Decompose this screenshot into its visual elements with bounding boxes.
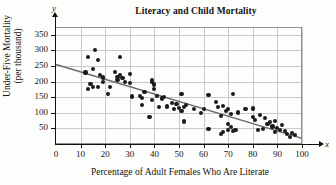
data-point xyxy=(115,78,119,82)
x-axis-arrow-icon xyxy=(319,141,324,147)
x-tick-label: 70 xyxy=(216,149,240,159)
data-point xyxy=(96,85,100,89)
x-tick-mark xyxy=(277,144,278,148)
y-tick-mark xyxy=(51,35,56,36)
gridline-vertical xyxy=(302,27,303,144)
x-tick-mark xyxy=(130,144,131,148)
y-tick-mark xyxy=(51,50,56,51)
data-point xyxy=(179,92,183,96)
x-tick-mark xyxy=(302,144,303,148)
data-point xyxy=(206,127,210,131)
data-point xyxy=(280,123,284,127)
x-tick-mark xyxy=(81,144,82,148)
data-point xyxy=(91,85,95,89)
data-point xyxy=(83,70,87,74)
data-point xyxy=(170,101,174,105)
data-point xyxy=(179,109,183,113)
data-point xyxy=(155,94,159,98)
data-point xyxy=(182,119,186,123)
data-point xyxy=(253,118,257,122)
y-tick-label: 200 xyxy=(8,76,48,86)
x-tick-mark xyxy=(154,144,155,148)
data-point xyxy=(86,87,90,91)
x-tick-label: 50 xyxy=(167,149,191,159)
data-point xyxy=(128,72,132,76)
y-tick-mark xyxy=(51,97,56,98)
y-tick-label: 350 xyxy=(8,29,48,39)
data-point xyxy=(221,104,225,108)
y-axis-arrow-icon xyxy=(52,12,58,17)
y-tick-mark xyxy=(51,128,56,129)
data-point xyxy=(288,135,292,139)
data-point xyxy=(233,128,237,132)
data-point xyxy=(101,80,105,84)
data-point xyxy=(229,112,233,116)
data-point xyxy=(256,128,260,132)
data-point xyxy=(113,70,117,74)
data-point xyxy=(123,80,127,84)
data-point xyxy=(130,94,134,98)
data-point xyxy=(270,124,274,128)
x-tick-label: 60 xyxy=(192,149,216,159)
x-tick-mark xyxy=(204,144,205,148)
data-point xyxy=(273,130,277,134)
data-point xyxy=(214,100,218,104)
data-point xyxy=(162,95,166,99)
x-tick-label: 30 xyxy=(118,149,142,159)
data-point xyxy=(140,96,144,100)
data-point xyxy=(202,107,206,111)
data-point xyxy=(152,87,156,91)
data-point xyxy=(221,130,225,134)
y-tick-mark xyxy=(51,113,56,114)
data-points-layer xyxy=(56,27,302,144)
y-tick-mark xyxy=(51,66,56,67)
x-tick-label: 0 xyxy=(44,149,68,159)
x-tick-label: 90 xyxy=(265,149,289,159)
data-point xyxy=(184,103,188,107)
data-point xyxy=(219,114,223,118)
x-tick-label: 10 xyxy=(69,149,93,159)
plot-area xyxy=(56,27,302,144)
y-tick-label: 100 xyxy=(8,107,48,117)
x-tick-label: 80 xyxy=(241,149,265,159)
data-point xyxy=(258,113,262,117)
data-point xyxy=(243,107,247,111)
data-point xyxy=(128,81,132,85)
data-point xyxy=(165,104,169,108)
data-point xyxy=(278,128,282,132)
data-point xyxy=(118,55,122,59)
x-axis-title: Percentage of Adult Females Who Are Lite… xyxy=(40,167,320,177)
data-point xyxy=(251,106,255,110)
data-point xyxy=(263,116,267,120)
data-point xyxy=(216,105,220,109)
x-tick-label: 20 xyxy=(93,149,117,159)
data-point xyxy=(192,107,196,111)
data-point xyxy=(108,85,112,89)
data-point xyxy=(147,115,151,119)
x-tick-label: 100 xyxy=(290,149,314,159)
data-point xyxy=(206,93,210,97)
y-tick-label: 150 xyxy=(8,91,48,101)
y-tick-label: 50 xyxy=(8,122,48,132)
chart-figure: Literacy and Child Mortality y x Under-F… xyxy=(0,0,336,185)
data-point xyxy=(172,107,176,111)
data-point xyxy=(150,98,154,102)
data-point xyxy=(236,110,240,114)
x-tick-mark xyxy=(253,144,254,148)
data-point xyxy=(152,82,156,86)
x-tick-mark xyxy=(228,144,229,148)
x-tick-label: 40 xyxy=(142,149,166,159)
data-point xyxy=(106,92,110,96)
chart-title: Literacy and Child Mortality xyxy=(96,6,296,16)
data-point xyxy=(91,67,95,71)
x-tick-mark xyxy=(105,144,106,148)
data-point xyxy=(293,133,297,137)
data-point xyxy=(96,58,100,62)
data-point xyxy=(157,105,161,109)
x-tick-mark xyxy=(179,144,180,148)
data-point xyxy=(199,111,203,115)
data-point xyxy=(231,92,235,96)
data-point xyxy=(268,120,272,124)
data-point xyxy=(273,119,277,123)
y-tick-label: 250 xyxy=(8,60,48,70)
